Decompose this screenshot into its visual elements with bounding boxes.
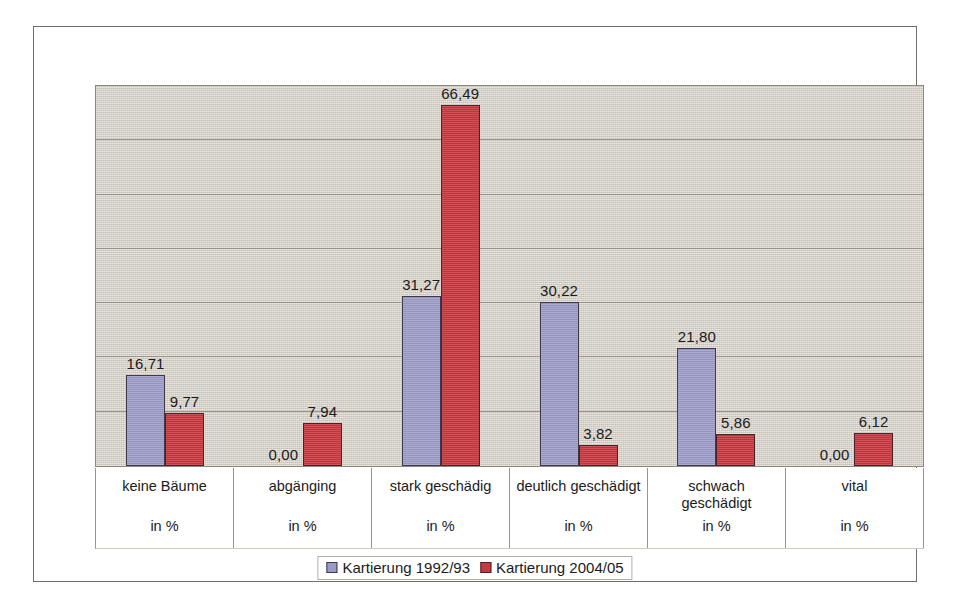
- category-unit-label: in %: [702, 518, 730, 534]
- chart-canvas: 16,719,770,007,9431,2766,4930,223,8221,8…: [0, 0, 954, 609]
- bar-value-label: 21,80: [678, 328, 716, 345]
- bar-group: 0,007,94: [234, 86, 372, 466]
- category-cell: deutlich geschädigtin %: [510, 468, 648, 548]
- plot-area: 16,719,770,007,9431,2766,4930,223,8221,8…: [95, 85, 924, 467]
- legend-swatch-icon: [326, 562, 337, 573]
- bar-group: 16,719,77: [96, 86, 234, 466]
- category-unit-label: in %: [840, 518, 868, 534]
- category-cell: abgängingin %: [234, 468, 372, 548]
- category-unit-label: in %: [564, 518, 592, 534]
- category-cell: keine Bäumein %: [96, 468, 234, 548]
- bar[interactable]: [677, 348, 716, 466]
- bar[interactable]: [303, 423, 342, 466]
- category-label: vital: [842, 478, 868, 495]
- bar[interactable]: [540, 302, 579, 466]
- chart-legend: Kartierung 1992/93Kartierung 2004/05: [317, 556, 632, 580]
- bar-group: 0,006,12: [785, 86, 923, 466]
- bar-value-label: 6,12: [859, 413, 889, 430]
- legend-entry[interactable]: Kartierung 2004/05: [480, 559, 624, 576]
- bar-group: 31,2766,49: [372, 86, 510, 466]
- bar-group: 21,805,86: [647, 86, 785, 466]
- bar[interactable]: [126, 375, 165, 466]
- legend-swatch-icon: [480, 562, 491, 573]
- legend-label: Kartierung 2004/05: [496, 559, 624, 576]
- category-unit-label: in %: [150, 518, 178, 534]
- category-label: schwach geschädigt: [681, 478, 751, 512]
- bar[interactable]: [402, 296, 441, 466]
- bar[interactable]: [165, 413, 204, 466]
- bar[interactable]: [579, 445, 618, 466]
- bar-value-label: 5,86: [721, 414, 751, 431]
- bar-value-label: 0,00: [269, 446, 299, 463]
- bar[interactable]: [716, 434, 755, 466]
- bar[interactable]: [441, 105, 480, 466]
- bar-value-label: 3,82: [583, 425, 613, 442]
- category-cell: vitalin %: [786, 468, 924, 548]
- category-cell: stark geschädigin %: [372, 468, 510, 548]
- bar-group: 30,223,82: [510, 86, 648, 466]
- bar-value-label: 0,00: [820, 446, 850, 463]
- category-label: abgänging: [269, 478, 337, 495]
- bar[interactable]: [854, 433, 893, 466]
- legend-entry[interactable]: Kartierung 1992/93: [326, 559, 470, 576]
- category-label: keine Bäume: [122, 478, 207, 495]
- bar-value-label: 9,77: [170, 393, 200, 410]
- bar-value-label: 16,71: [126, 355, 164, 372]
- category-axis-table: keine Bäumein %abgängingin %stark geschä…: [95, 468, 924, 549]
- legend-label: Kartierung 1992/93: [342, 559, 470, 576]
- category-cell: schwach geschädigtin %: [648, 468, 786, 548]
- category-label: deutlich geschädigt: [516, 478, 640, 495]
- bar-value-label: 31,27: [402, 276, 440, 293]
- category-unit-label: in %: [426, 518, 454, 534]
- category-unit-label: in %: [288, 518, 316, 534]
- chart-outer-frame: 16,719,770,007,9431,2766,4930,223,8221,8…: [33, 26, 917, 582]
- bar-value-label: 66,49: [441, 85, 479, 102]
- category-label: stark geschädig: [390, 478, 492, 495]
- bar-value-label: 30,22: [540, 282, 578, 299]
- bar-value-label: 7,94: [308, 403, 338, 420]
